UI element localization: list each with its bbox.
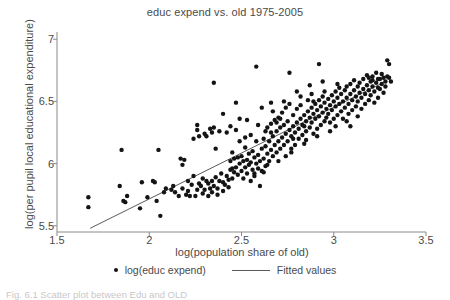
x-tick-label: 2 [146,234,152,246]
x-tick-label: 1.5 [49,234,64,246]
chart-legend: log(educ expend) Fitted values [0,264,450,276]
legend-label-fitted: Fitted values [277,264,337,276]
legend-label-points: log(educ expend) [125,264,206,276]
legend-item-fitted: Fitted values [232,264,337,276]
x-tick-label: 3 [331,234,337,246]
legend-item-points: log(educ expend) [114,264,206,276]
x-tick-label: 3.5 [418,234,433,246]
figure-container: educ expend vs. old 1975-2005 log(per pu… [0,0,450,300]
x-tick-label: 2.5 [234,234,249,246]
legend-dot-marker-icon [114,268,118,272]
figure-caption: Fig. 6.1 Scatter plot between Edu and OL… [6,289,187,300]
x-axis-label: log(population share of old) [58,246,426,258]
legend-line-marker-icon [232,270,270,271]
